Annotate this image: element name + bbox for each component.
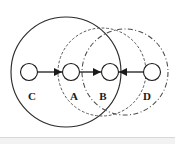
arrowhead-a-to-b: [93, 68, 101, 76]
node-label-d: D: [143, 90, 151, 102]
diagram-figure: C A B D: [0, 0, 175, 144]
arrowhead-d-to-b: [119, 68, 127, 76]
node-circle-b: [102, 64, 119, 81]
edge-group: [38, 68, 143, 76]
node-circle-c: [21, 64, 38, 81]
bottom-divider: [0, 137, 175, 144]
node-label-c: C: [28, 90, 36, 102]
node-label-b: B: [99, 90, 107, 102]
node-label-a: A: [70, 90, 78, 102]
node-circle-a: [63, 64, 80, 81]
diagram-canvas: C A B D: [0, 0, 175, 144]
node-circle-d: [144, 64, 161, 81]
